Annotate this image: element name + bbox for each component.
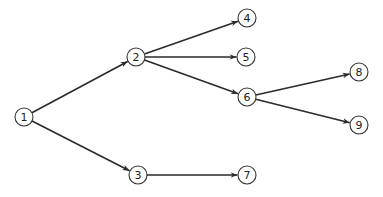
node-label: 1	[21, 111, 28, 124]
arrow-icon	[32, 61, 128, 112]
arrow-icon	[256, 74, 350, 95]
node-label: 4	[244, 12, 251, 25]
node-label: 5	[243, 51, 250, 64]
edge-6-8	[256, 74, 350, 95]
arrow-icon	[144, 60, 238, 94]
node-1: 1	[15, 108, 33, 126]
edge-1-2	[32, 61, 128, 112]
node-4: 4	[238, 9, 256, 27]
edge-2-4	[144, 21, 238, 54]
node-2: 2	[127, 48, 145, 66]
arrow-icon	[32, 121, 130, 171]
node-label: 9	[356, 119, 363, 132]
node-5: 5	[237, 48, 255, 66]
node-8: 8	[350, 63, 368, 81]
node-label: 6	[244, 91, 251, 104]
tree-diagram: 123456789	[0, 0, 383, 197]
node-label: 3	[135, 169, 142, 182]
node-3: 3	[129, 166, 147, 184]
edge-1-3	[32, 121, 130, 171]
edges-layer	[32, 21, 350, 175]
node-9: 9	[350, 116, 368, 134]
node-6: 6	[238, 88, 256, 106]
nodes-layer: 123456789	[15, 9, 368, 184]
edge-2-6	[144, 60, 238, 94]
node-label: 7	[244, 169, 251, 182]
arrow-icon	[256, 99, 350, 123]
edge-6-9	[256, 99, 350, 123]
arrow-icon	[144, 21, 238, 54]
node-label: 8	[356, 66, 363, 79]
node-7: 7	[238, 166, 256, 184]
node-label: 2	[133, 51, 140, 64]
